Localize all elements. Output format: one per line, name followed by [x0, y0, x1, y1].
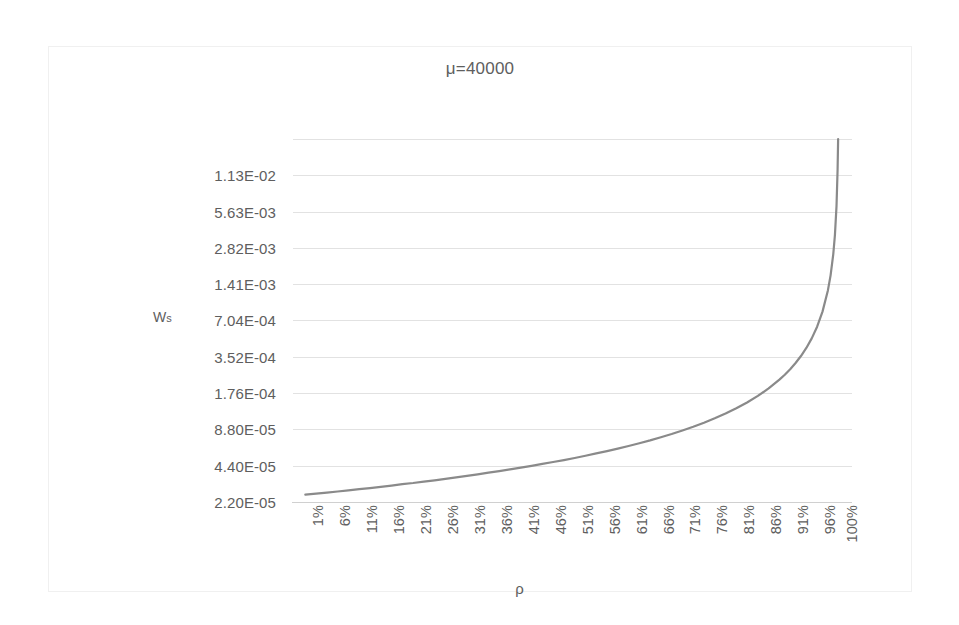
x-tick-label: 51% [580, 505, 596, 534]
x-tick-label: 36% [499, 505, 515, 534]
y-tick-label: 2.82E-03 [214, 239, 276, 256]
chart-title: μ=40000 [49, 59, 911, 79]
series-line-ws [292, 139, 852, 502]
x-tick-label: 1% [310, 505, 326, 526]
chart-container: μ=40000 1.13E-025.63E-032.82E-031.41E-03… [48, 46, 912, 592]
y-axis-title-main: W [153, 309, 166, 325]
x-tick-label: 31% [472, 505, 488, 534]
plot-area [292, 139, 852, 502]
x-tick-label: 41% [526, 505, 542, 534]
x-axis-line [292, 502, 852, 503]
x-tick-label: 91% [795, 505, 811, 534]
y-tick-label: 8.80E-05 [214, 421, 276, 438]
x-tick-label: 21% [418, 505, 434, 534]
y-tick-label: 1.76E-04 [214, 385, 276, 402]
y-tick-label: 1.41E-03 [214, 276, 276, 293]
x-tick-label: 26% [445, 505, 461, 534]
x-tick-label: 96% [822, 505, 838, 534]
x-tick-label: 6% [337, 505, 353, 526]
x-tick-label: 71% [687, 505, 703, 534]
x-tick-label: 86% [768, 505, 784, 534]
x-tick-label: 16% [391, 505, 407, 534]
y-tick-label: 3.52E-04 [214, 348, 276, 365]
x-tick-label: 61% [634, 505, 650, 534]
y-tick-label: 7.04E-04 [214, 312, 276, 329]
y-tick-label: 4.40E-05 [214, 457, 276, 474]
x-tick-label: 56% [607, 505, 623, 534]
x-tick-label: 100% [844, 505, 860, 543]
y-tick-label: 5.63E-03 [214, 203, 276, 220]
x-tick-label: 66% [661, 505, 677, 534]
x-tick-label: 11% [364, 505, 380, 533]
y-axis-title: Ws [153, 309, 172, 325]
x-axis-title: ρ [49, 580, 959, 597]
x-axis-tick-labels: 1%6%11%16%21%26%31%36%41%46%51%56%61%66%… [292, 505, 852, 567]
x-tick-label: 46% [553, 505, 569, 534]
y-axis-title-subscript: s [166, 312, 172, 324]
y-tick-label: 2.20E-05 [214, 494, 276, 511]
y-tick-label: 1.13E-02 [214, 167, 276, 184]
x-tick-label: 81% [741, 505, 757, 534]
x-tick-label: 76% [714, 505, 730, 534]
